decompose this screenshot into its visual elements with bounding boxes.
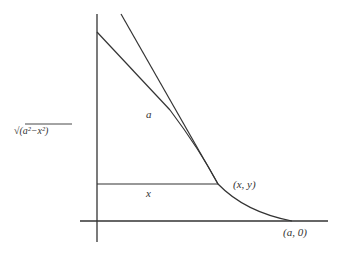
label-point: (x, y) — [233, 178, 256, 190]
tractrix-diagram — [0, 0, 351, 255]
hypotenuse-segment — [97, 32, 170, 110]
label-sqrt: √(a²−x²) — [14, 125, 48, 136]
label-intercept: (a, 0) — [283, 226, 307, 238]
tractrix-curve — [170, 110, 292, 221]
label-x: x — [146, 187, 151, 199]
label-a: a — [146, 108, 152, 120]
